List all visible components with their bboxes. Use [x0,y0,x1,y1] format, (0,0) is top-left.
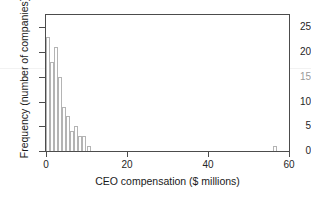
y-axis-tick [39,52,45,53]
x-axis-tick [208,152,209,157]
y-axis-tick [39,27,45,28]
histogram-bars [46,15,289,151]
y-axis-tick [39,77,45,78]
y-axis-tick-label: 20 [277,47,311,57]
x-axis-tick-label: 20 [112,159,142,170]
histogram-figure: 0510152025 0204060 CEO compensation ($ m… [0,0,311,200]
x-axis-tick [127,152,128,157]
x-axis-tick-label: 0 [31,159,61,170]
x-axis-label: CEO compensation ($ millions) [45,175,290,187]
y-axis-tick [39,102,45,103]
y-axis-label: Frequency (number of companies) [18,0,30,163]
x-axis-tick [46,152,47,157]
y-axis-tick-label: 0 [277,146,311,156]
y-axis-tick [39,151,45,152]
histogram-bar [87,146,91,151]
x-axis-tick-label: 60 [274,159,304,170]
y-axis-tick-label: 25 [277,22,311,32]
y-axis-tick [39,126,45,127]
y-axis-tick-label: 5 [277,121,311,131]
y-axis-tick-label: 10 [277,97,311,107]
x-axis-tick-label: 40 [193,159,223,170]
y-axis-tick-label: 15 [277,72,311,82]
x-axis-tick [289,152,290,157]
